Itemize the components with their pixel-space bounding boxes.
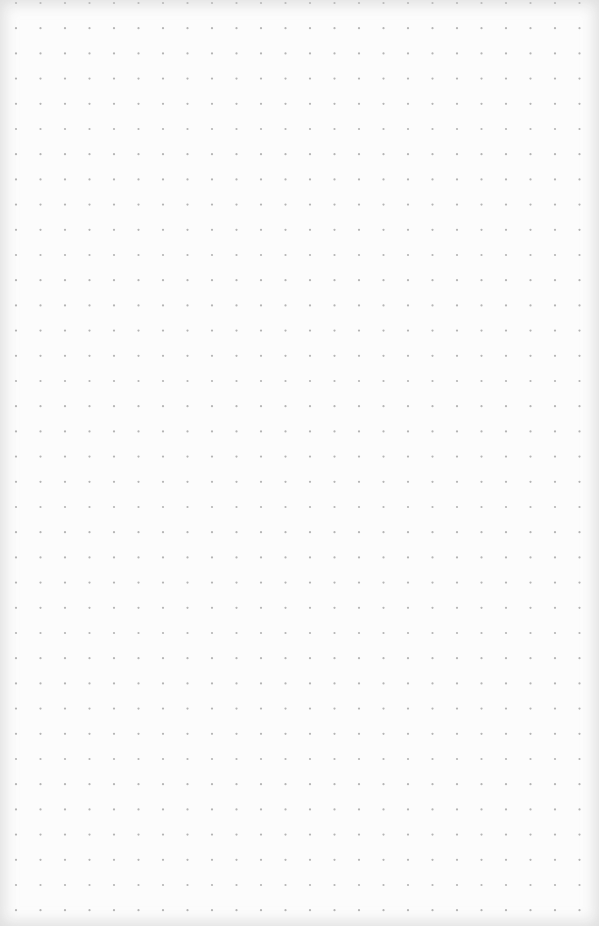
grid-dot [578, 632, 580, 634]
grid-dot [382, 78, 384, 80]
grid-dot [407, 279, 409, 281]
grid-dot [456, 380, 458, 382]
grid-dot [456, 859, 458, 861]
grid-dot [480, 52, 482, 54]
grid-dot [554, 481, 556, 483]
grid-dot [309, 531, 311, 533]
grid-dot [578, 430, 580, 432]
grid-dot [137, 456, 139, 458]
grid-dot [260, 103, 262, 105]
grid-dot [39, 355, 41, 357]
grid-dot [456, 430, 458, 432]
grid-dot [505, 556, 507, 558]
grid-dot [39, 657, 41, 659]
grid-dot [554, 632, 556, 634]
grid-dot [480, 834, 482, 836]
grid-dot [333, 808, 335, 810]
grid-dot [235, 103, 237, 105]
grid-dot [211, 531, 213, 533]
grid-dot [456, 330, 458, 332]
grid-dot [505, 783, 507, 785]
grid-dot [15, 607, 17, 609]
grid-dot [554, 153, 556, 155]
grid-dot [456, 758, 458, 760]
grid-dot [162, 708, 164, 710]
grid-dot [235, 733, 237, 735]
grid-dot [578, 78, 580, 80]
grid-dot [578, 783, 580, 785]
grid-dot [162, 2, 164, 4]
grid-dot [456, 52, 458, 54]
grid-dot [64, 632, 66, 634]
grid-dot [64, 481, 66, 483]
grid-dot [554, 909, 556, 911]
grid-dot [260, 556, 262, 558]
grid-dot [456, 708, 458, 710]
grid-dot [113, 607, 115, 609]
grid-dot [309, 304, 311, 306]
grid-dot [88, 430, 90, 432]
grid-dot [382, 204, 384, 206]
grid-dot [162, 405, 164, 407]
grid-dot [235, 128, 237, 130]
grid-dot [431, 254, 433, 256]
grid-dot [235, 783, 237, 785]
grid-dot [137, 783, 139, 785]
grid-dot [309, 607, 311, 609]
grid-dot [284, 859, 286, 861]
grid-dot [284, 834, 286, 836]
grid-dot [211, 556, 213, 558]
grid-dot [235, 27, 237, 29]
grid-dot [235, 52, 237, 54]
grid-dot [333, 52, 335, 54]
grid-dot [358, 582, 360, 584]
grid-dot [284, 254, 286, 256]
grid-dot [39, 153, 41, 155]
grid-dot [578, 405, 580, 407]
grid-dot [529, 78, 531, 80]
grid-dot [358, 708, 360, 710]
grid-dot [284, 808, 286, 810]
grid-dot [529, 808, 531, 810]
grid-dot [235, 556, 237, 558]
grid-dot [456, 884, 458, 886]
grid-dot [39, 430, 41, 432]
grid-dot [64, 78, 66, 80]
grid-dot [235, 380, 237, 382]
grid-dot [39, 128, 41, 130]
grid-dot [333, 355, 335, 357]
grid-dot [39, 2, 41, 4]
grid-dot [211, 657, 213, 659]
grid-dot [186, 632, 188, 634]
grid-dot [358, 52, 360, 54]
grid-dot [529, 632, 531, 634]
grid-dot [333, 279, 335, 281]
grid-dot [456, 808, 458, 810]
grid-dot [431, 27, 433, 29]
grid-dot [186, 708, 188, 710]
grid-dot [358, 884, 360, 886]
grid-dot [529, 279, 531, 281]
dot-grid-paper [0, 0, 599, 926]
grid-dot [284, 27, 286, 29]
grid-dot [333, 834, 335, 836]
grid-dot [260, 52, 262, 54]
grid-dot [284, 481, 286, 483]
grid-dot [113, 52, 115, 54]
grid-dot [260, 254, 262, 256]
grid-dot [113, 204, 115, 206]
grid-dot [186, 380, 188, 382]
grid-dot [137, 103, 139, 105]
grid-dot [431, 456, 433, 458]
grid-dot [431, 783, 433, 785]
grid-dot [529, 254, 531, 256]
grid-dot [113, 456, 115, 458]
grid-dot [235, 430, 237, 432]
grid-dot [382, 834, 384, 836]
grid-dot [407, 355, 409, 357]
grid-dot [529, 128, 531, 130]
grid-dot [186, 531, 188, 533]
grid-dot [505, 52, 507, 54]
grid-dot [407, 531, 409, 533]
grid-dot [358, 456, 360, 458]
